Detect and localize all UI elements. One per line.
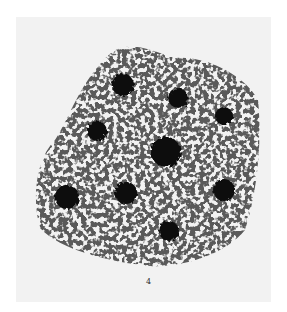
figure-label: 4 — [146, 277, 151, 286]
nucleus-icon — [168, 88, 188, 108]
nucleus-icon — [215, 107, 233, 125]
nucleus-icon — [112, 74, 134, 96]
nucleus-icon — [213, 179, 235, 201]
nucleus-icon — [159, 221, 179, 241]
nucleus-icon — [115, 182, 137, 204]
cell-illustration — [0, 0, 287, 312]
nucleus-icon — [151, 137, 181, 167]
nucleus-icon — [87, 121, 107, 141]
cell-outline — [36, 46, 260, 266]
nucleus-icon — [55, 185, 79, 209]
